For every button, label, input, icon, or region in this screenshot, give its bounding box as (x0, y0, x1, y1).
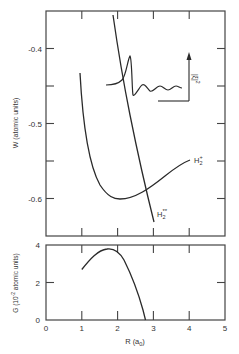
upper-y-axis-label: W (atomic units) (12, 98, 20, 149)
inset-label: |ξ|2 (191, 74, 201, 84)
xtick-label: 0 (44, 324, 49, 333)
upper-panel: -0.4 -0.5 -0.6 W (atomic units) H2+ H2**… (12, 11, 225, 236)
upper-y-ticks (46, 49, 225, 199)
lower-plot-frame (46, 245, 225, 320)
arrow-up-icon (187, 52, 192, 60)
x-axis-label: R (a0) (125, 337, 145, 347)
lower-bottom-x-ticks (82, 311, 189, 320)
upper-ytick-label: -0.4 (28, 45, 42, 54)
g-width-curve (82, 249, 146, 320)
inset-wave-curve (106, 56, 182, 95)
xtick-label: 5 (223, 324, 228, 333)
lower-ytick-label: 4 (36, 241, 41, 250)
h2-doubly-excited-label: H2** (157, 208, 168, 220)
upper-plot-frame (46, 11, 225, 236)
upper-ytick-label: -0.6 (28, 195, 42, 204)
h2plus-curve (80, 73, 190, 199)
xtick-label: 4 (187, 324, 192, 333)
upper-ytick-label: -0.5 (28, 120, 42, 129)
h2plus-label: H2+ (194, 154, 203, 166)
lower-y-axis-label: G (10-2 atomic units) (10, 253, 20, 312)
potential-energy-figure: -0.4 -0.5 -0.6 W (atomic units) H2+ H2**… (0, 0, 239, 354)
upper-top-x-ticks (82, 11, 189, 19)
lower-panel: 4 2 0 G (10-2 atomic units) 0 1 2 3 4 5 … (10, 241, 228, 347)
lower-ytick-label: 0 (36, 316, 41, 325)
xtick-label: 2 (115, 324, 120, 333)
h2-doubly-excited-curve (113, 15, 154, 222)
xtick-label: 1 (80, 324, 85, 333)
upper-bottom-x-ticks (82, 228, 189, 236)
lower-top-x-ticks (82, 245, 189, 253)
lower-ytick-label: 2 (36, 279, 41, 288)
x-tick-labels: 0 1 2 3 4 5 (44, 324, 228, 333)
xtick-label: 3 (151, 324, 156, 333)
